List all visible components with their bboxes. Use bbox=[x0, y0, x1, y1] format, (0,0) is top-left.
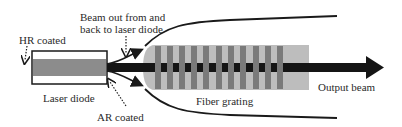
output-beam-label: Output beam bbox=[318, 81, 375, 93]
laser-diode-label: Laser diode bbox=[43, 92, 95, 104]
fiber-grating-label: Fiber grating bbox=[196, 95, 253, 107]
beam-out-arrow-lower bbox=[107, 71, 141, 85]
ar-coated-label: AR coated bbox=[97, 111, 144, 123]
beam-out-arrow-upper bbox=[107, 50, 141, 64]
ar-coated-pointer bbox=[110, 82, 126, 106]
laser-diode bbox=[32, 51, 107, 84]
beam-out-label-line1: Beam out from and bbox=[80, 11, 165, 23]
hr-coated-label: HR coated bbox=[19, 34, 66, 46]
fiber-outline-upper bbox=[145, 16, 337, 46]
output-beam-shaft bbox=[283, 63, 368, 72]
beam-out-label-line2: back to laser diode bbox=[80, 23, 163, 35]
output-beam-arrowhead bbox=[366, 56, 384, 79]
hr-coated-pointer bbox=[25, 46, 27, 60]
laser-diode-core bbox=[33, 59, 106, 76]
diagram-canvas bbox=[0, 0, 402, 127]
